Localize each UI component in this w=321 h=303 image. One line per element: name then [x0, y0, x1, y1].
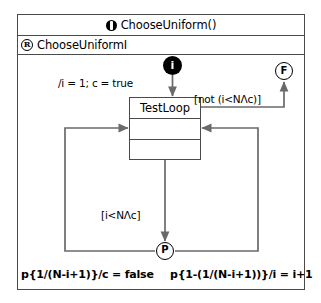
diagram-frame: ChooseUniform() R ChooseUniformI — [17, 14, 305, 290]
state-compartment-3 — [130, 140, 200, 161]
region-r-icon: R — [21, 39, 33, 51]
operation-icon — [106, 20, 117, 31]
edge-label-state-to-final: [not (i<NΛc)] — [194, 93, 261, 105]
state-testloop[interactable]: TestLoop — [129, 97, 201, 160]
edge-label-prob-left: p{1/(N-i+1)}/c = false — [21, 268, 154, 281]
initial-node: i — [163, 56, 182, 75]
probabilistic-choice-node: P — [156, 242, 174, 260]
state-name-label: TestLoop — [140, 101, 190, 115]
state-compartment-2 — [130, 119, 200, 140]
final-node: F — [275, 62, 293, 80]
edge-label-prob-right: p{1-(1/(N-i+1))}/i = i+1 — [170, 268, 312, 281]
edge-label-init-to-state: /i = 1; c = true — [58, 77, 133, 89]
edge-label-state-to-prob: [i<NΛc] — [101, 209, 140, 221]
uml-state-diagram: ChooseUniform() R ChooseUniformI — [0, 0, 321, 303]
state-name-compartment: TestLoop — [130, 98, 200, 119]
region-title-bar: R ChooseUniformI — [18, 36, 304, 55]
diagram-canvas: i F P TestLoop /i = 1; c = true [not (i<… — [18, 55, 304, 290]
frame-title: ChooseUniform() — [121, 18, 217, 32]
frame-title-bar: ChooseUniform() — [18, 15, 304, 36]
region-label: ChooseUniformI — [37, 38, 127, 52]
